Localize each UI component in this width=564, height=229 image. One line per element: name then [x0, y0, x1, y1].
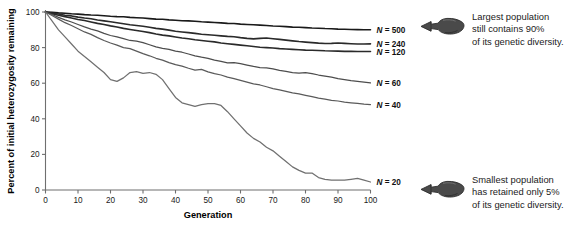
series-label-n-60: N = 60 — [377, 79, 402, 88]
y-tick-label: 0 — [35, 186, 40, 195]
y-axis-ticks: 020406080100 — [26, 8, 46, 195]
x-tick-label: 30 — [138, 196, 148, 205]
y-tick-label: 60 — [30, 79, 40, 88]
annotation-line: Smallest population — [472, 174, 564, 186]
annotation-line: of its genetic diversity. — [472, 199, 564, 211]
x-tick-label: 90 — [333, 196, 343, 205]
series-label-n-120: N = 120 — [377, 48, 406, 57]
annotation-line: Largest population — [472, 11, 564, 23]
series-label-n-20: N = 20 — [377, 178, 402, 187]
x-axis-ticks: 0102030405060708090100 — [43, 190, 378, 205]
series-label-n-500: N = 500 — [377, 26, 406, 35]
annotation-line: still contains 90% — [472, 23, 564, 35]
x-tick-label: 0 — [43, 196, 48, 205]
y-tick-label: 20 — [30, 150, 40, 159]
axes — [46, 10, 371, 190]
pointing-hand-right-icon — [419, 176, 465, 202]
annotation-largest-population: Largest population still contains 90% of… — [472, 11, 564, 48]
x-axis-title: Generation — [184, 210, 233, 220]
annotation-line: of its genetic diversity. — [472, 36, 564, 48]
pointing-hand-right-icon — [419, 13, 465, 39]
y-tick-label: 100 — [26, 8, 40, 17]
series-line-n-500 — [46, 12, 371, 30]
x-tick-label: 60 — [236, 196, 246, 205]
annotation-line: has retained only 5% — [472, 186, 564, 198]
x-tick-label: 20 — [106, 196, 116, 205]
series-line-n-20 — [46, 12, 371, 182]
x-tick-label: 40 — [171, 196, 181, 205]
series-labels-group: N = 500N = 240N = 120N = 60N = 40N = 20 — [377, 26, 406, 187]
x-tick-label: 80 — [301, 196, 311, 205]
x-tick-label: 10 — [73, 196, 83, 205]
y-axis-title: Percent of initial heterozygosity remain… — [6, 8, 16, 193]
x-tick-label: 70 — [268, 196, 278, 205]
annotation-smallest-population: Smallest population has retained only 5%… — [472, 174, 564, 211]
y-tick-label: 40 — [30, 115, 40, 124]
data-series-group — [46, 12, 371, 182]
y-tick-label: 80 — [30, 44, 40, 53]
series-label-n-40: N = 40 — [377, 101, 402, 110]
series-line-n-120 — [46, 12, 371, 52]
x-tick-label: 100 — [364, 196, 378, 205]
x-tick-label: 50 — [203, 196, 213, 205]
